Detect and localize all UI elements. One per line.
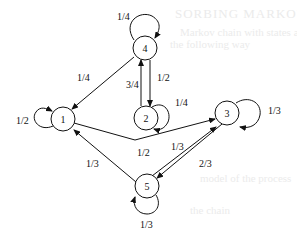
state-node-1: 1: [51, 107, 75, 131]
edge-label-3-5: 2/3: [199, 158, 212, 169]
edge-1-1: [34, 108, 53, 128]
state-node-3: 3: [215, 101, 239, 125]
state-node-4: 4: [133, 36, 157, 60]
edge-label-4-2: 1/2: [157, 72, 170, 83]
node-label-2: 2: [144, 113, 149, 124]
edge-label-2-2: 1/4: [175, 97, 188, 108]
edge-4-1: [72, 57, 134, 109]
edge-label-5-5: 1/3: [140, 219, 153, 230]
edge-label-1-1: 1/2: [16, 115, 29, 126]
edge-label-4-1: 1/4: [77, 72, 90, 83]
edge-label-5-1: 1/3: [86, 158, 99, 169]
node-label-4: 4: [143, 43, 148, 54]
state-node-2: 2: [134, 106, 158, 130]
edge-label-1-3: 1/2: [137, 147, 150, 158]
edge-label-4-4: 1/4: [117, 11, 130, 22]
edge-label-2-4: 3/4: [126, 79, 139, 90]
edge-label-3-3: 1/3: [268, 105, 281, 116]
markov-chain-diagram: 1/4 1/4 1/2 3/4 1/4 1/2 1/2 1/3 2/3 1/3 …: [0, 0, 297, 241]
node-label-3: 3: [225, 108, 230, 119]
node-label-1: 1: [61, 114, 66, 125]
edge-label-5-3: 1/3: [171, 141, 184, 152]
state-node-5: 5: [135, 174, 159, 198]
edge-3-3: [236, 100, 260, 128]
node-label-5: 5: [145, 181, 150, 192]
